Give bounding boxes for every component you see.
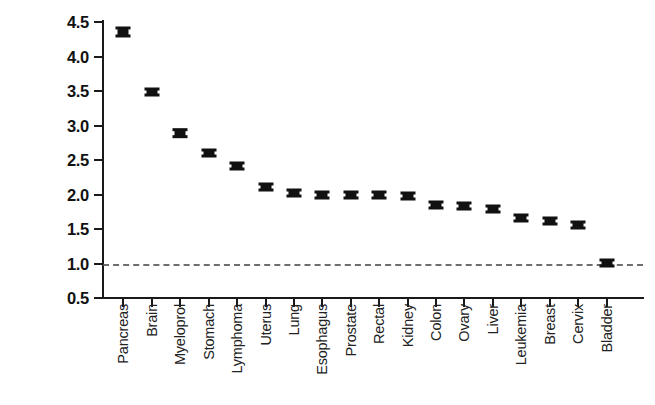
x-axis-label: Esophagus	[322, 304, 338, 375]
data-point	[428, 200, 444, 209]
x-axis-label-text: Prostate	[343, 304, 359, 356]
data-point	[229, 162, 245, 171]
data-point	[144, 87, 160, 96]
y-tick: 2.5	[94, 159, 103, 161]
data-marker	[487, 205, 498, 212]
x-axis-label-text: Leukemia	[513, 304, 529, 365]
data-point	[115, 27, 131, 38]
figure-container: Relative Risk of VTE in Cancer Patients …	[0, 0, 655, 405]
data-point	[314, 190, 330, 199]
y-tick-label: 4.0	[67, 47, 89, 66]
data-point	[172, 128, 188, 138]
x-axis-label: Lung	[294, 304, 310, 335]
x-axis-label: Kidney	[408, 304, 424, 347]
y-tick-label: 2.0	[67, 185, 89, 204]
y-tick-label: 3.0	[67, 116, 89, 135]
data-point	[286, 189, 302, 198]
x-axis-label-text: Breast	[542, 304, 558, 345]
data-marker	[345, 192, 356, 199]
x-axis-label-text: Rectal	[371, 304, 387, 344]
y-tick: 4.5	[94, 21, 103, 23]
x-axis-label: Pancreas	[123, 304, 139, 364]
x-axis-label: Prostate	[351, 304, 367, 356]
data-marker	[431, 201, 442, 208]
y-tick: 3.5	[94, 90, 103, 92]
x-axis-label-text: Pancreas	[115, 304, 131, 364]
x-axis-label: Brain	[152, 304, 168, 337]
x-axis-label: Stomach	[209, 304, 225, 360]
y-tick-label: 3.5	[67, 82, 89, 101]
y-tick: 2.0	[94, 194, 103, 196]
x-axis-label: Lymphoma	[237, 304, 253, 374]
data-point	[542, 216, 558, 225]
data-marker	[573, 221, 584, 228]
data-marker	[146, 88, 157, 95]
x-axis-label: Uterus	[266, 304, 282, 346]
x-axis-label: Cervix	[578, 304, 594, 344]
data-marker	[175, 130, 186, 137]
y-tick-label: 0.5	[67, 289, 89, 308]
data-point	[485, 204, 501, 213]
data-marker	[544, 217, 555, 224]
data-point	[343, 191, 359, 200]
data-marker	[516, 214, 527, 221]
y-tick-label: 4.5	[67, 13, 89, 32]
data-point	[371, 191, 387, 200]
y-axis-title: Relative Risk of VTE in Cancer Patients	[6, 0, 50, 44]
x-axis-label: Colon	[436, 304, 452, 341]
y-tick: 3.0	[94, 125, 103, 127]
y-tick: 1.5	[94, 228, 103, 230]
y-tick: 4.0	[94, 56, 103, 58]
y-tick: 0.5	[94, 297, 103, 299]
data-marker	[601, 259, 612, 266]
x-axis-label-text: Kidney	[400, 304, 416, 347]
y-tick: 1.0	[94, 263, 103, 265]
data-marker	[288, 190, 299, 197]
data-point	[258, 182, 274, 191]
data-point	[400, 191, 416, 200]
data-marker	[232, 163, 243, 170]
data-marker	[317, 191, 328, 198]
data-marker	[402, 192, 413, 199]
x-axis-label-text: Myeloprol	[172, 304, 188, 365]
x-axis-label-text: Esophagus	[314, 304, 330, 375]
data-marker	[459, 203, 470, 210]
reference-line	[103, 264, 643, 266]
data-marker	[118, 29, 129, 36]
x-axis-label-text: Colon	[428, 304, 444, 341]
data-point	[570, 220, 586, 229]
x-axis-label-text: Uterus	[258, 304, 274, 346]
x-axis-label-text: Liver	[485, 304, 501, 334]
x-axis-label-text: Brain	[144, 304, 160, 337]
data-marker	[260, 183, 271, 190]
x-axis-label: Liver	[493, 304, 509, 334]
x-axis-label-text: Ovary	[456, 304, 472, 342]
x-axis-label: Ovary	[464, 304, 480, 342]
data-point	[599, 258, 615, 267]
x-axis-label: Breast	[550, 304, 566, 345]
x-axis-label-text: Lung	[286, 304, 302, 335]
x-axis-label-text: Lymphoma	[229, 304, 245, 374]
y-tick-label: 2.5	[67, 151, 89, 170]
x-axis-label: Rectal	[379, 304, 395, 344]
data-marker	[374, 192, 385, 199]
x-axis-label-text: Cervix	[570, 304, 586, 344]
data-marker	[203, 150, 214, 157]
x-axis-label-text: Bladder	[599, 304, 615, 353]
data-point	[456, 202, 472, 211]
x-axis-label: Leukemia	[521, 304, 537, 365]
y-tick-label: 1.5	[67, 220, 89, 239]
x-axis-label: Myeloprol	[180, 304, 196, 365]
data-point	[513, 213, 529, 222]
plot-area: 0.51.01.52.02.53.03.54.04.5	[103, 22, 643, 298]
y-tick-label: 1.0	[67, 254, 89, 273]
data-point	[201, 149, 217, 158]
x-axis-label: Bladder	[607, 304, 623, 353]
x-axis-label-text: Stomach	[201, 304, 217, 360]
